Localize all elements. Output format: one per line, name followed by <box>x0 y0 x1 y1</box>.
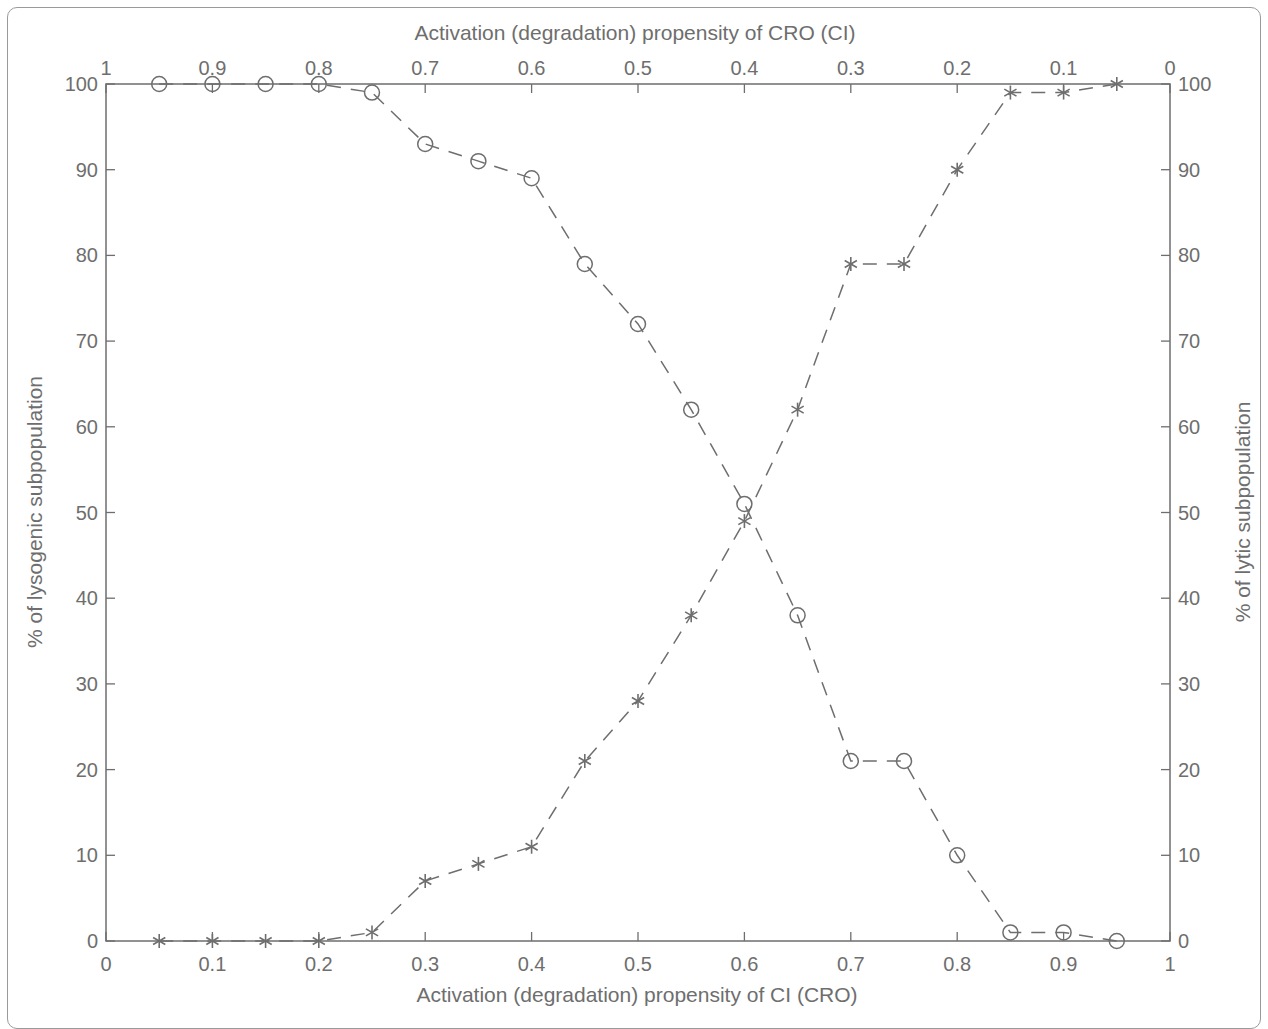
top-x-tick-label: 0.4 <box>730 57 758 79</box>
top-x-tick-label: 0.2 <box>943 57 971 79</box>
circle-marker <box>418 136 433 151</box>
series-line <box>159 84 1117 941</box>
asterisk-marker <box>845 257 857 271</box>
x-tick-label: 0.8 <box>943 953 971 975</box>
asterisk-marker <box>419 874 431 888</box>
right-y-tick-label: 60 <box>1178 416 1200 438</box>
right-y-tick-label: 10 <box>1178 844 1200 866</box>
top-x-tick-label: 0.1 <box>1050 57 1078 79</box>
x-tick-label: 0.1 <box>198 953 226 975</box>
circle-marker <box>365 85 380 100</box>
x-tick-label: 0.4 <box>518 953 546 975</box>
top-x-axis-label: Activation (degradation) propensity of C… <box>414 21 855 44</box>
x-tick-label: 0.6 <box>730 953 758 975</box>
y-tick-label: 100 <box>65 73 98 95</box>
series-line <box>159 84 1117 941</box>
y-tick-label: 0 <box>87 930 98 952</box>
top-x-tick-label: 1 <box>100 57 111 79</box>
circle-marker <box>577 256 592 271</box>
axes: 010.10.90.20.80.30.70.40.60.50.50.60.40.… <box>65 57 1212 975</box>
top-x-tick-label: 0.5 <box>624 57 652 79</box>
right-y-axis-label: % of lytic subpopulation <box>1231 402 1254 623</box>
right-y-tick-label: 30 <box>1178 673 1200 695</box>
y-tick-label: 70 <box>76 330 98 352</box>
plot-area-border <box>106 84 1170 941</box>
asterisk-marker <box>792 403 804 417</box>
top-x-tick-label: 0.7 <box>411 57 439 79</box>
right-y-tick-label: 80 <box>1178 244 1200 266</box>
x-axis-label: Activation (degradation) propensity of C… <box>416 983 857 1006</box>
top-x-tick-label: 0.8 <box>305 57 333 79</box>
circle-marker <box>524 171 539 186</box>
y-tick-label: 30 <box>76 673 98 695</box>
right-y-tick-label: 90 <box>1178 159 1200 181</box>
asterisk-marker <box>526 840 538 854</box>
plot-series <box>152 77 1125 949</box>
x-tick-label: 0.5 <box>624 953 652 975</box>
x-tick-label: 0.9 <box>1050 953 1078 975</box>
asterisk-marker <box>632 694 644 708</box>
x-tick-label: 0.3 <box>411 953 439 975</box>
x-tick-label: 0.7 <box>837 953 865 975</box>
x-tick-label: 0 <box>100 953 111 975</box>
y-tick-label: 10 <box>76 844 98 866</box>
right-y-tick-label: 70 <box>1178 330 1200 352</box>
right-y-tick-label: 50 <box>1178 502 1200 524</box>
top-x-tick-label: 0.3 <box>837 57 865 79</box>
top-x-tick-label: 0.9 <box>198 57 226 79</box>
x-tick-label: 1 <box>1164 953 1175 975</box>
top-x-tick-label: 0.6 <box>518 57 546 79</box>
asterisk-marker <box>685 608 697 622</box>
y-tick-label: 80 <box>76 244 98 266</box>
right-y-tick-label: 20 <box>1178 759 1200 781</box>
right-y-tick-label: 0 <box>1178 930 1189 952</box>
top-x-tick-label: 0 <box>1164 57 1175 79</box>
asterisk-marker <box>472 857 484 871</box>
right-y-tick-label: 40 <box>1178 587 1200 609</box>
y-tick-label: 60 <box>76 416 98 438</box>
asterisk-marker <box>738 514 750 528</box>
y-axis-label: % of lysogenic subpopulation <box>23 376 46 648</box>
x-tick-label: 0.2 <box>305 953 333 975</box>
y-tick-label: 90 <box>76 159 98 181</box>
y-tick-label: 20 <box>76 759 98 781</box>
y-tick-label: 40 <box>76 587 98 609</box>
right-y-tick-label: 100 <box>1178 73 1211 95</box>
y-tick-label: 50 <box>76 502 98 524</box>
